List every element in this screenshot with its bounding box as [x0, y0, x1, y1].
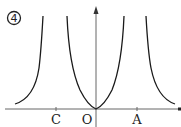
curve-left-branch	[15, 16, 43, 104]
label-c: C	[51, 112, 61, 127]
graph-figure: 4 C O A	[0, 0, 181, 127]
figure-number: 4	[11, 12, 18, 25]
graph-svg: 4 C O A	[0, 0, 181, 127]
x-axis-end-marker	[178, 108, 181, 111]
curve-right-branch	[146, 16, 175, 104]
label-a: A	[131, 112, 142, 127]
y-axis-arrow-icon	[94, 6, 99, 14]
figure-number-badge: 4	[8, 12, 21, 26]
label-o: O	[82, 112, 93, 127]
